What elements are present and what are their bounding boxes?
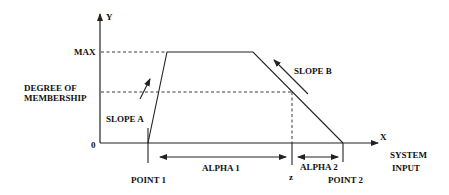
alpha2-label: ALPHA 2 <box>300 162 338 172</box>
y-axis-label: Y <box>106 12 113 22</box>
slope-a-label: SLOPE A <box>106 114 144 124</box>
x-axis-label: X <box>380 132 387 142</box>
membership-function-diagram: Y X MAX 0 DEGREE OF MEMBERSHIP SYSTEM IN… <box>0 0 449 195</box>
z-label: z <box>289 172 293 182</box>
slope-a-arrow <box>140 79 150 99</box>
degree-of-label: DEGREE OF <box>24 83 77 93</box>
zero-label: 0 <box>91 140 96 150</box>
alpha1-label: ALPHA 1 <box>202 163 240 173</box>
max-label: MAX <box>74 47 96 57</box>
system-label: SYSTEM <box>390 150 428 160</box>
input-label: INPUT <box>392 163 420 173</box>
membership-label: MEMBERSHIP <box>24 93 87 103</box>
point2-label: POINT 2 <box>328 175 364 185</box>
slope-b-label: SLOPE B <box>294 66 332 76</box>
point1-label: POINT 1 <box>131 175 167 185</box>
